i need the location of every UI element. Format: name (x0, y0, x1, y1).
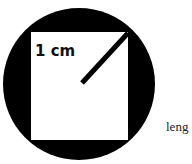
radius-label: 1 cm (35, 42, 75, 60)
cut-off-text: leng (166, 119, 188, 135)
diagram-canvas (0, 0, 192, 164)
